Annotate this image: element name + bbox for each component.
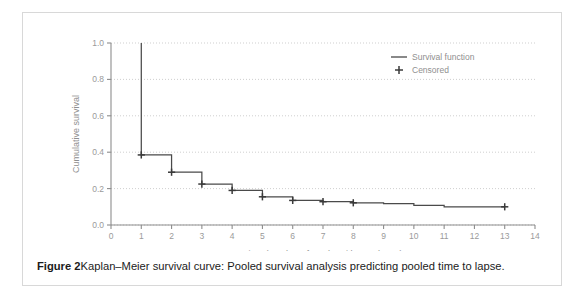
censored-marker	[350, 199, 357, 206]
figure-container: 0.00.20.40.60.81.0 01234567891011121314 …	[22, 12, 562, 286]
x-tick-label: 8	[351, 231, 356, 241]
survival-function-line	[141, 43, 504, 207]
y-tick-label: 0.8	[92, 74, 104, 84]
censored-marker	[319, 198, 326, 205]
x-axis-title: Time (number of weeks without a lapse)	[243, 249, 402, 251]
axes-group	[111, 43, 535, 225]
y-tick-label: 1.0	[92, 38, 104, 48]
x-tick-label: 4	[230, 231, 235, 241]
x-tick-label: 7	[321, 231, 326, 241]
y-tick-label: 0.4	[92, 147, 104, 157]
censored-plus-marker	[395, 66, 403, 74]
x-tick-label: 14	[530, 231, 540, 241]
x-axis-ticks: 01234567891011121314	[109, 225, 540, 241]
censored-marker	[259, 193, 266, 200]
chart-legend: Survival function Censored	[391, 52, 475, 75]
chart-svg: 0.00.20.40.60.81.0 01234567891011121314 …	[23, 13, 559, 251]
censored-marker	[289, 197, 296, 204]
x-tick-label: 13	[500, 231, 510, 241]
x-tick-label: 1	[139, 231, 144, 241]
x-tick-label: 11	[440, 231, 449, 241]
figure-caption: Figure 2Kaplan–Meier survival curve: Poo…	[37, 259, 549, 274]
x-tick-label: 6	[290, 231, 295, 241]
censored-marker	[198, 180, 205, 187]
censored-marker	[229, 187, 236, 194]
x-tick-label: 10	[409, 231, 419, 241]
legend-label-censored: Censored	[412, 65, 449, 75]
censored-markers-group	[138, 151, 509, 210]
gridlines-group	[111, 43, 535, 225]
figure-caption-text: Kaplan–Meier survival curve: Pooled surv…	[81, 260, 505, 272]
y-tick-label: 0.0	[92, 220, 104, 230]
kaplan-meier-chart: 0.00.20.40.60.81.0 01234567891011121314 …	[23, 13, 559, 251]
y-tick-label: 0.6	[92, 111, 104, 121]
censored-marker	[168, 169, 175, 176]
survival-step-path	[141, 43, 504, 207]
x-tick-label: 2	[169, 231, 174, 241]
x-tick-label: 5	[260, 231, 265, 241]
x-tick-label: 12	[470, 231, 480, 241]
y-axis-ticks: 0.00.20.40.60.81.0	[92, 38, 111, 230]
y-tick-label: 0.2	[92, 184, 104, 194]
x-tick-label: 3	[199, 231, 204, 241]
y-axis-title: Cumulative survival	[71, 95, 81, 173]
figure-caption-label: Figure 2	[37, 260, 81, 272]
legend-label-survival-function: Survival function	[412, 52, 475, 62]
x-tick-label: 0	[109, 231, 114, 241]
censored-marker	[501, 203, 508, 210]
x-tick-label: 9	[381, 231, 386, 241]
